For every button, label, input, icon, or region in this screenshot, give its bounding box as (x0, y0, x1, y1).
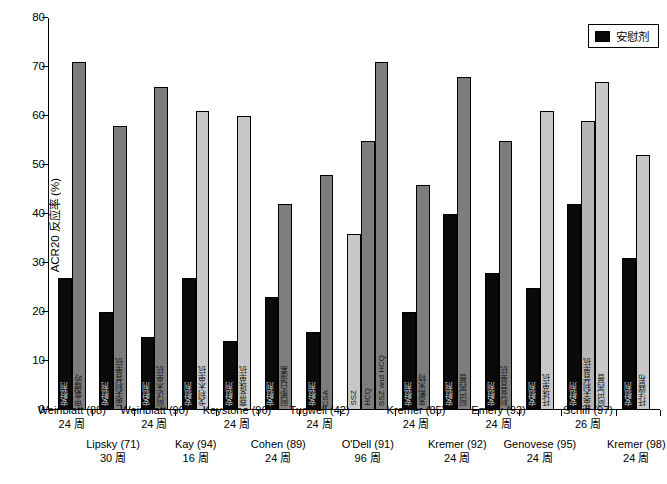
x-group-study: Weinblatt (88) (38, 404, 106, 418)
y-tick-label: 40 (32, 208, 45, 220)
bar: 42阿那白滞素 (278, 204, 292, 410)
x-group-duration: 24 周 (503, 452, 576, 466)
x-group-study: O'Dell (91) (342, 438, 394, 452)
bar: 42安慰剂 (567, 204, 581, 410)
bar: 25安慰剂 (526, 288, 540, 411)
x-group-study: Kremer (98) (607, 438, 666, 452)
y-tick-label: 60 (32, 110, 45, 122)
bar: 23安慰剂 (265, 297, 279, 410)
x-group-duration: 24 周 (290, 418, 350, 432)
y-tick-label: 70 (32, 61, 45, 73)
x-group-study: Cohen (89) (251, 438, 306, 452)
x-group-duration: 24 周 (203, 418, 271, 432)
bar: 61托珠单抗 (540, 111, 554, 410)
x-group-study: Kremer (85) (387, 404, 446, 418)
x-group-label: Schiff (97)26 周 (563, 404, 613, 432)
bar-inline-label: 利妥昔单抗 (501, 366, 509, 406)
x-group-study: Emery (93) (471, 404, 525, 418)
x-group-study: Lipsky (71) (86, 438, 140, 452)
bar-inline-label: 安慰剂 (102, 382, 110, 406)
y-tick-label: 30 (32, 257, 45, 269)
bar: 27安慰剂 (58, 278, 72, 410)
bar-inline-label: 来氟米特 (419, 374, 427, 406)
y-axis-title: ACR20 反应率 (%) (46, 178, 62, 272)
bar-inline-label: 安慰剂 (61, 382, 69, 406)
x-group-duration: 24 周 (38, 418, 106, 432)
legend-swatch-placebo (595, 31, 610, 42)
bar: 59英夫利昔单抗 (581, 121, 595, 410)
x-group-study: Kay (94) (175, 438, 217, 452)
bar-inline-label: 阿巴西普 (460, 374, 468, 406)
x-group-label: Tugwell (42)24 周 (290, 404, 350, 432)
x-group-study: Keystone (96) (203, 404, 271, 418)
bar: 66阿达木单抗 (154, 87, 168, 410)
x-group-duration: 24 周 (471, 418, 525, 432)
x-group-label: Emery (93)24 周 (471, 404, 525, 432)
bar-inline-label: 安慰剂 (529, 382, 537, 406)
x-group-duration: 24 周 (120, 418, 188, 432)
bar-inline-label: 安慰剂 (309, 382, 317, 406)
bar-inline-label: 赛妥珠单抗 (240, 366, 248, 406)
bar: 55利妥昔单抗 (499, 141, 513, 411)
x-group-duration: 96 周 (342, 452, 394, 466)
x-group-label: Kay (94)16 周 (175, 438, 217, 466)
bar: 31安慰剂 (622, 258, 636, 410)
x-group-label: Kremer (98)24 周 (607, 438, 666, 466)
bar: 20安慰剂 (99, 312, 113, 410)
bar-inline-label: 安慰剂 (226, 382, 234, 406)
bar: 20安慰剂 (402, 312, 416, 410)
bar: 15安慰剂 (141, 337, 155, 411)
x-group-duration: 24 周 (251, 452, 306, 466)
bar-inline-label: 甲氨蝶呤 (75, 374, 83, 406)
bar-inline-label: 安慰剂 (405, 382, 413, 406)
bar-inline-label: HCQ (364, 388, 372, 406)
x-group-label: Keystone (96)24 周 (203, 404, 271, 432)
bar-inline-label: 托珠单抗 (543, 374, 551, 406)
bar-inline-label: SSZ and HCQ (378, 355, 386, 406)
plot-area: ACR20 反应率 (%) 01020304050607080 27安慰剂71甲… (48, 18, 660, 410)
chart-page: ACR20 反应率 (%) 01020304050607080 27安慰剂71甲… (0, 0, 667, 484)
bar: 58英夫利昔单抗 (113, 126, 127, 410)
x-group-duration: 24 周 (428, 452, 487, 466)
y-tick-label: 80 (32, 12, 45, 24)
bar-inline-label: 戈利木单抗 (199, 366, 207, 406)
x-group-duration: 24 周 (387, 418, 446, 432)
bar: 40安慰剂 (443, 214, 457, 410)
legend: 安慰剂 (588, 24, 659, 48)
x-group-label: Weinblatt (88)24 周 (38, 404, 106, 432)
x-group-duration: 30 周 (86, 452, 140, 466)
bar: 28安慰剂 (485, 273, 499, 410)
bar-inline-label: 英夫利昔单抗 (584, 358, 592, 406)
bar: 60赛妥珠单抗 (237, 116, 251, 410)
bar: 61戈利木单抗 (196, 111, 210, 410)
bar-inline-label: 安慰剂 (625, 382, 633, 406)
bar: 48CSA (320, 175, 334, 410)
bar-inline-label: 托法替布 (639, 374, 647, 406)
x-group-study: Tugwell (42) (290, 404, 350, 418)
bar: 16安慰剂 (306, 332, 320, 410)
x-tick-mark (660, 410, 661, 416)
legend-label-placebo: 安慰剂 (616, 28, 649, 44)
bar: 46来氟米特 (416, 185, 430, 410)
bar-inline-label: 英夫利昔单抗 (116, 358, 124, 406)
bar: 55HCQ (361, 141, 375, 411)
bar: 71SSZ and HCQ (375, 62, 389, 410)
bar-inline-label: 安慰剂 (143, 382, 151, 406)
y-tick-label: 10 (32, 355, 45, 367)
x-group-label: Kremer (92)24 周 (428, 438, 487, 466)
y-tick-label: 50 (32, 159, 45, 171)
bar-inline-label: 阿那白滞素 (281, 366, 289, 406)
bar: 71甲氨蝶呤 (72, 62, 86, 410)
x-group-label: O'Dell (91)96 周 (342, 438, 394, 466)
x-group-duration: 24 周 (607, 452, 666, 466)
bar-inline-label: 阿巴西普 (598, 374, 606, 406)
x-group-label: Genovese (95)24 周 (503, 438, 576, 466)
x-group-label: Cohen (89)24 周 (251, 438, 306, 466)
y-tick-label: 20 (32, 306, 45, 318)
x-tick-mark (561, 410, 562, 416)
x-group-study: Kremer (92) (428, 438, 487, 452)
bar-inline-label: 安慰剂 (570, 382, 578, 406)
x-group-duration: 16 周 (175, 452, 217, 466)
x-group-label: Kremer (85)24 周 (387, 404, 446, 432)
x-group-study: Schiff (97) (563, 404, 613, 418)
